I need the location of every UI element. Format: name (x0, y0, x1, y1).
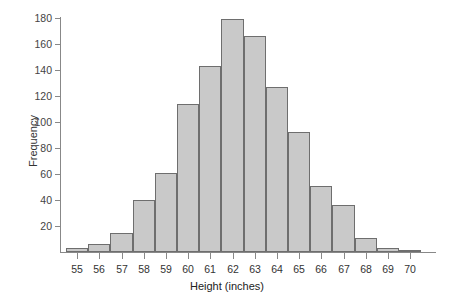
x-axis-title: Height (inches) (0, 280, 454, 292)
x-axis-tick (122, 253, 123, 259)
x-axis-tick-label: 59 (154, 263, 178, 275)
y-axis-tick-label: 160 (34, 39, 52, 49)
x-axis-tick (166, 253, 167, 259)
y-axis-tick (55, 70, 61, 71)
x-axis-tick-label: 65 (287, 263, 311, 275)
x-axis-tick-label: 60 (176, 263, 200, 275)
y-axis-tick (55, 122, 61, 123)
histogram-bar (399, 250, 421, 252)
y-axis-tick (55, 96, 61, 97)
x-axis-tick (210, 253, 211, 259)
x-axis-tick (410, 253, 411, 259)
x-axis-tick (388, 253, 389, 259)
histogram-bar (110, 233, 132, 253)
x-axis-tick (99, 253, 100, 259)
histogram-bar (266, 87, 288, 252)
x-axis-tick-label: 63 (243, 263, 267, 275)
x-axis-line (60, 252, 436, 253)
y-axis-tick (55, 226, 61, 227)
y-axis-line (60, 17, 61, 253)
histogram-bar (332, 205, 354, 252)
x-axis-tick-label: 68 (354, 263, 378, 275)
y-axis-tick (55, 18, 61, 19)
y-axis-tick (55, 200, 61, 201)
x-axis-tick-label: 62 (221, 263, 245, 275)
x-axis-tick-label: 57 (110, 263, 134, 275)
histogram-bar (155, 173, 177, 252)
x-axis-tick-label: 66 (309, 263, 333, 275)
y-axis-tick-label: 80 (40, 143, 52, 153)
x-axis-tick (233, 253, 234, 259)
histogram-bar (310, 186, 332, 252)
histogram-bar (66, 248, 88, 252)
histogram-bar (288, 132, 310, 252)
y-axis-tick-label: 60 (40, 169, 52, 179)
plot-area (66, 18, 432, 252)
y-axis-tick-label: 40 (40, 195, 52, 205)
y-axis-tick (55, 148, 61, 149)
x-axis-tick-label: 56 (87, 263, 111, 275)
x-axis-tick (321, 253, 322, 259)
y-axis-tick-label: 180 (34, 13, 52, 23)
x-axis-tick (144, 253, 145, 259)
x-axis-tick-label: 70 (398, 263, 422, 275)
y-axis-tick (55, 44, 61, 45)
x-axis-tick (188, 253, 189, 259)
histogram-bar (133, 200, 155, 252)
histogram-bar (177, 104, 199, 252)
x-axis-tick (77, 253, 78, 259)
x-axis-tick-label: 61 (198, 263, 222, 275)
y-axis-title-wrapper: Frequency (18, 20, 32, 240)
histogram-bar (355, 238, 377, 252)
y-axis-tick-label: 20 (40, 221, 52, 231)
x-axis-tick-label: 64 (265, 263, 289, 275)
x-axis-tick (255, 253, 256, 259)
x-axis-tick-label: 69 (376, 263, 400, 275)
y-axis-title: Frequency (27, 71, 39, 211)
x-axis-tick-label: 55 (65, 263, 89, 275)
x-axis-tick-label: 58 (132, 263, 156, 275)
histogram-bar (244, 36, 266, 252)
x-axis-tick (344, 253, 345, 259)
histogram-bar (221, 19, 243, 252)
histogram-figure: 18016014012010080604020 5556575859606162… (0, 0, 454, 302)
histogram-bar (199, 66, 221, 252)
x-axis-tick-label: 67 (332, 263, 356, 275)
y-axis-tick (55, 174, 61, 175)
histogram-bar (88, 244, 110, 252)
x-axis-tick (299, 253, 300, 259)
x-axis-tick (277, 253, 278, 259)
x-axis-tick (366, 253, 367, 259)
histogram-bar (377, 248, 399, 252)
